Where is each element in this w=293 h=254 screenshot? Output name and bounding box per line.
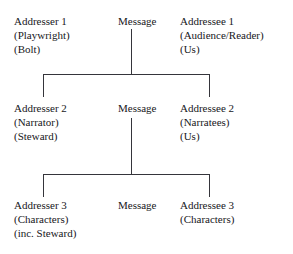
addresser-1-role: (Playwright) [14, 28, 70, 42]
addresser-2-role: (Narrator) [14, 115, 67, 129]
message-label-2: Message [118, 101, 157, 115]
addressee-1-role: (Audience/Reader) [180, 28, 264, 42]
addressee-2-title: Addressee 2 [180, 101, 234, 115]
node-addresser-1: Addresser 1 (Playwright) (Bolt) [14, 14, 70, 56]
connector-1-stem [131, 29, 132, 75]
addresser-1-title: Addresser 1 [14, 14, 70, 28]
connector-1-left-drop [43, 74, 44, 97]
addressee-1-instance: (Us) [180, 42, 264, 56]
addresser-2-instance: (Steward) [14, 129, 67, 143]
message-label-3: Message [118, 198, 157, 212]
connector-2-left-drop [43, 174, 44, 197]
addresser-3-instance: (inc. Steward) [14, 226, 76, 240]
addressee-3-role: (Characters) [180, 212, 234, 226]
addresser-1-instance: (Bolt) [14, 42, 70, 56]
message-label-1: Message [118, 14, 157, 28]
node-addressee-1: Addressee 1 (Audience/Reader) (Us) [180, 14, 264, 56]
addressee-2-instance: (Us) [180, 129, 234, 143]
addresser-3-role: (Characters) [14, 212, 76, 226]
addressee-3-title: Addressee 3 [180, 198, 234, 212]
addressee-2-role: (Narratees) [180, 115, 234, 129]
node-addresser-2: Addresser 2 (Narrator) (Steward) [14, 101, 67, 143]
node-addressee-2: Addressee 2 (Narratees) (Us) [180, 101, 234, 143]
communication-model-diagram: Addresser 1 (Playwright) (Bolt) Message … [0, 0, 293, 254]
connector-2-right-drop [209, 174, 210, 197]
node-addressee-3: Addressee 3 (Characters) [180, 198, 234, 226]
connector-2-stem [131, 118, 132, 175]
addresser-3-title: Addresser 3 [14, 198, 76, 212]
addressee-1-title: Addressee 1 [180, 14, 264, 28]
node-addresser-3: Addresser 3 (Characters) (inc. Steward) [14, 198, 76, 240]
addresser-2-title: Addresser 2 [14, 101, 67, 115]
connector-2-crossbar [43, 174, 210, 175]
connector-1-right-drop [209, 74, 210, 97]
connector-1-crossbar [43, 74, 210, 75]
